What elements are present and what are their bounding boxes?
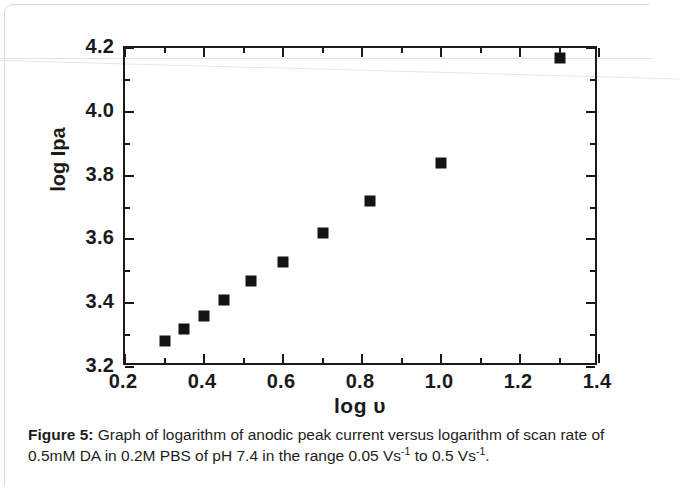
figure-caption: Figure 5: Graph of logarithm of anodic p…	[28, 424, 624, 466]
y-axis-tick-label: 3.8	[86, 162, 114, 185]
y-axis-minor-tick	[125, 143, 130, 145]
x-axis-minor-tick	[322, 358, 324, 363]
caption-label: Figure 5:	[28, 426, 93, 443]
y-axis-tick-label: 3.6	[86, 226, 114, 249]
y-axis-minor-tick	[125, 270, 130, 272]
y-axis-tick-label: 4.2	[86, 35, 114, 58]
x-axis-major-tick-top	[203, 48, 205, 57]
caption-superscript-2: -1	[476, 445, 485, 457]
data-point-marker	[159, 336, 170, 347]
x-axis-major-tick	[440, 354, 442, 363]
x-axis-major-tick	[203, 354, 205, 363]
y-axis-minor-tick-right	[590, 79, 595, 81]
plot-frame	[123, 46, 597, 365]
x-axis-major-tick	[282, 354, 284, 363]
data-point-marker	[218, 295, 229, 306]
x-axis-tick-labels: 0.20.40.60.81.01.21.4	[123, 370, 597, 396]
y-axis-minor-tick-right	[590, 334, 595, 336]
y-axis-major-tick-right	[586, 175, 595, 177]
x-axis-major-tick	[124, 354, 126, 363]
y-axis-major-tick	[125, 302, 134, 304]
data-point-marker	[179, 323, 190, 334]
data-point-marker	[317, 228, 328, 239]
y-axis-minor-tick	[125, 207, 130, 209]
data-point-marker	[554, 52, 565, 63]
y-axis-major-tick	[125, 175, 134, 177]
data-point-marker	[436, 157, 447, 168]
figure-5-chart: log Ipa 3.23.43.63.84.04.2 0.20.40.60.81…	[0, 0, 653, 400]
x-axis-major-tick	[598, 354, 600, 363]
data-point-marker	[199, 310, 210, 321]
x-axis-minor-tick	[243, 358, 245, 363]
x-axis-tick-label: 0.4	[188, 370, 216, 393]
y-axis-major-tick-right	[586, 47, 595, 49]
x-axis-major-tick	[519, 354, 521, 363]
x-axis-major-tick-top	[440, 48, 442, 57]
x-axis-major-tick-top	[124, 48, 126, 57]
x-axis-tick-label: 1.4	[583, 370, 611, 393]
y-axis-tick-labels: 3.23.43.63.84.04.2	[56, 46, 114, 365]
x-axis-minor-tick	[401, 358, 403, 363]
x-axis-tick-label: 0.6	[267, 370, 295, 393]
x-axis-minor-tick	[480, 358, 482, 363]
y-axis-major-tick	[125, 111, 134, 113]
x-axis-tick-label: 0.8	[346, 370, 374, 393]
x-axis-tick-label: 1.2	[504, 370, 532, 393]
y-axis-minor-tick-right	[590, 270, 595, 272]
x-axis-minor-tick-top	[322, 48, 324, 53]
y-axis-minor-tick-right	[590, 143, 595, 145]
x-axis-major-tick-top	[598, 48, 600, 57]
y-axis-major-tick-right	[586, 238, 595, 240]
y-axis-tick-label: 4.0	[86, 98, 114, 121]
caption-text-3: .	[485, 447, 489, 464]
x-axis-minor-tick-top	[401, 48, 403, 53]
x-axis-minor-tick	[164, 358, 166, 363]
y-axis-major-tick	[125, 47, 134, 49]
caption-text-2: to 0.5 Vs	[410, 447, 475, 464]
x-axis-minor-tick-top	[243, 48, 245, 53]
y-axis-major-tick-right	[586, 302, 595, 304]
x-axis-minor-tick-top	[164, 48, 166, 53]
x-axis-major-tick-top	[361, 48, 363, 57]
x-axis-minor-tick-top	[480, 48, 482, 53]
y-axis-major-tick-right	[586, 366, 595, 368]
x-axis-major-tick-top	[519, 48, 521, 57]
data-point-marker	[364, 196, 375, 207]
y-axis-major-tick	[125, 238, 134, 240]
y-axis-tick-label: 3.4	[86, 290, 114, 313]
x-axis-tick-label: 0.2	[109, 370, 137, 393]
x-axis-major-tick	[361, 354, 363, 363]
y-axis-minor-tick	[125, 79, 130, 81]
x-axis-minor-tick-top	[559, 48, 561, 53]
y-axis-major-tick-right	[586, 111, 595, 113]
x-axis-major-tick-top	[282, 48, 284, 57]
data-point-marker	[246, 275, 257, 286]
caption-text-1: Graph of logarithm of anodic peak curren…	[28, 426, 604, 464]
x-axis-minor-tick	[559, 358, 561, 363]
y-axis-minor-tick	[125, 334, 130, 336]
x-axis-tick-label: 1.0	[425, 370, 453, 393]
data-point-marker	[278, 256, 289, 267]
y-axis-minor-tick-right	[590, 207, 595, 209]
y-axis-major-tick	[125, 366, 134, 368]
plot-canvas	[125, 48, 595, 363]
x-axis-title: log υ	[123, 394, 597, 418]
